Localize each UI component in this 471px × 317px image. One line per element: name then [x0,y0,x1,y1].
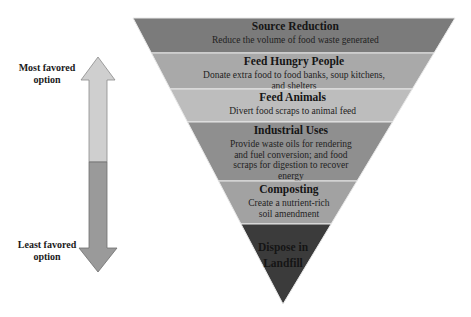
least-favored-label-line1: Least favored [7,239,87,251]
level-description: Provide waste oils for rendering [230,139,352,149]
level-title: Feed Animals [259,91,326,103]
pyramid-level-feed-hungry-people: Feed Hungry PeopleDonate extra food to f… [151,53,434,91]
level-title: Industrial Uses [254,124,329,136]
pyramid-level-feed-animals: Feed AnimalsDivert food scraps to animal… [170,89,412,122]
least-favored-label: Least favored option [7,239,87,263]
level-description: Create a nutrient-rich [248,198,329,208]
level-description: scraps for digestion to recover [233,160,349,170]
level-description: soil amendment [259,209,320,219]
level-title: Feed Hungry People [244,55,344,68]
pyramid-level-source-reduction: Source ReductionReduce the volume of foo… [133,18,455,53]
most-favored-label-line1: Most favored [7,62,87,74]
level-description: and fuel conversion; and food [234,150,348,160]
pyramid-levels: Source ReductionReduce the volume of foo… [133,18,455,304]
level-title: Dispose in [258,241,309,254]
level-description: Divert food scraps to animal feed [229,106,356,116]
most-favored-label-line2: option [7,74,87,86]
level-title: Source Reduction [252,20,340,32]
pyramid-level-dispose-in-landfill: Dispose inLandfill [241,224,331,304]
pyramid-level-composting: CompostingCreate a nutrient-richsoil ame… [219,181,358,224]
most-favored-label: Most favored option [7,62,87,86]
least-favored-label-line2: option [7,251,87,263]
level-description: Donate extra food to food banks, soup ki… [203,70,385,80]
pyramid-level-industrial-uses: Industrial UsesProvide waste oils for re… [188,122,393,181]
level-description: energy [278,171,304,181]
level-description: Reduce the volume of food waste generate… [212,35,379,45]
level-title: Composting [259,183,319,196]
food-recovery-hierarchy: Source ReductionReduce the volume of foo… [0,0,471,317]
level-title: Landfill [263,257,303,269]
